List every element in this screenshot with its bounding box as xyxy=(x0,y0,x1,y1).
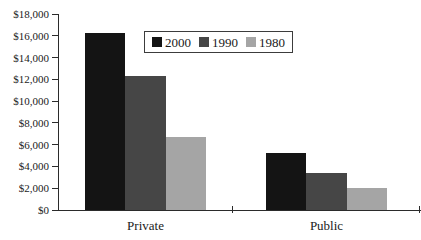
y-tick xyxy=(52,14,58,15)
y-tick-label: $16,000 xyxy=(0,30,49,42)
y-tick xyxy=(52,122,58,123)
y-tick-label: $18,000 xyxy=(0,8,49,20)
y-tick-label: $2,000 xyxy=(0,182,49,194)
y-tick-label: $0 xyxy=(0,204,49,216)
y-axis xyxy=(58,14,59,211)
category-label-public: Public xyxy=(287,218,367,234)
bar-public-1990 xyxy=(306,173,347,210)
legend-swatch-1990 xyxy=(199,37,209,47)
y-tick-label: $10,000 xyxy=(0,95,49,107)
x-tick xyxy=(419,206,420,213)
y-tick xyxy=(52,79,58,80)
bar-private-1990 xyxy=(125,76,166,210)
x-axis xyxy=(58,210,421,211)
y-tick xyxy=(52,35,58,36)
y-tick xyxy=(52,57,58,58)
y-tick-label: $8,000 xyxy=(0,117,49,129)
legend-item-2000: 2000 xyxy=(152,36,191,49)
legend-swatch-2000 xyxy=(152,37,162,47)
y-tick-label: $4,000 xyxy=(0,160,49,172)
y-tick xyxy=(52,101,58,102)
bar-private-2000 xyxy=(85,33,126,210)
y-tick-label: $12,000 xyxy=(0,73,49,85)
bar-chart: $0$2,000$4,000$6,000$8,000$10,000$12,000… xyxy=(0,0,421,240)
y-tick xyxy=(52,188,58,189)
y-tick-label: $14,000 xyxy=(0,52,49,64)
legend: 200019901980 xyxy=(144,31,293,53)
y-tick xyxy=(52,210,58,211)
y-tick xyxy=(52,144,58,145)
legend-swatch-1980 xyxy=(246,37,256,47)
legend-label: 2000 xyxy=(165,36,191,49)
legend-item-1980: 1980 xyxy=(246,36,285,49)
category-label-private: Private xyxy=(106,218,186,234)
bar-public-1980 xyxy=(347,188,388,210)
legend-label: 1990 xyxy=(212,36,238,49)
legend-item-1990: 1990 xyxy=(199,36,238,49)
y-tick-label: $6,000 xyxy=(0,139,49,151)
bar-public-2000 xyxy=(266,153,307,210)
x-tick xyxy=(232,206,233,213)
y-tick xyxy=(52,166,58,167)
legend-label: 1980 xyxy=(259,36,285,49)
bar-private-1980 xyxy=(166,137,207,210)
